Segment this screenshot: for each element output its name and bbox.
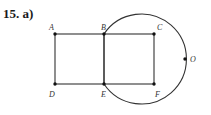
point-f bbox=[152, 82, 155, 85]
label-o: O bbox=[190, 55, 196, 64]
label-d: D bbox=[48, 90, 55, 99]
square-abed bbox=[55, 34, 104, 84]
square-bcfe bbox=[104, 34, 154, 84]
point-b bbox=[102, 32, 105, 35]
label-b: B bbox=[101, 23, 106, 32]
point-c bbox=[152, 32, 155, 35]
label-a: A bbox=[48, 23, 54, 32]
label-c: C bbox=[157, 23, 163, 32]
label-e: E bbox=[100, 90, 106, 99]
point-d bbox=[53, 82, 56, 85]
circle-arc bbox=[104, 14, 186, 104]
point-e bbox=[102, 82, 105, 85]
point-o bbox=[183, 57, 186, 60]
geometry-figure: A B C D E F O bbox=[0, 0, 211, 115]
point-a bbox=[53, 32, 56, 35]
label-f: F bbox=[154, 90, 160, 99]
